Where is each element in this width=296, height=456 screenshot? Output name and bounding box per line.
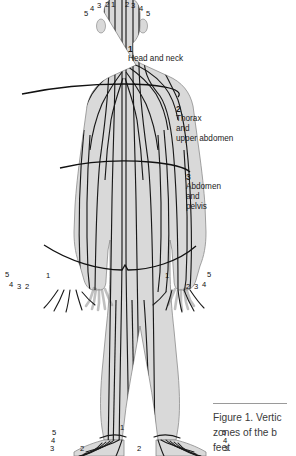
left-hand-digit-5: 5 [5, 270, 9, 279]
zone-3-line-3: pelvis [186, 202, 221, 212]
vertical-zones-figure: 5 4 3 2 1 2 3 4 5 5 4 3 2 1 1 2 3 4 5 5 … [0, 0, 296, 456]
zone-label-thorax-upper-abdomen: 2 Thorax and upper abdomen [176, 104, 233, 144]
head-digit-5-right: 5 [146, 9, 150, 18]
right-hand-digit-3: 3 [194, 282, 198, 291]
caption-line-2: zones of the b [213, 426, 296, 441]
left-hand-digit-3: 3 [17, 282, 21, 291]
figure-caption: Figure 1. Vertic zones of the b feet [213, 403, 296, 455]
head-digit-3-right: 3 [131, 1, 135, 10]
caption-rule [213, 403, 287, 404]
left-hand-digit-4: 4 [9, 280, 13, 289]
left-hand-digit-1: 1 [46, 271, 50, 280]
zone-2-line-1: Thorax [176, 114, 233, 124]
zone-3-number: 3 [186, 172, 221, 182]
body-silhouette [74, 0, 206, 456]
head-digit-2-left: 2 [105, 0, 109, 9]
zone-2-line-2: and [176, 124, 233, 134]
right-hand-digit-4: 4 [202, 280, 206, 289]
caption-line-1: Figure 1. Vertic [213, 411, 296, 426]
zone-label-head-and-neck: 1 Head and neck [128, 44, 183, 64]
head-digit-4-right: 4 [139, 4, 143, 13]
zone-1-line-1: Head and neck [128, 54, 183, 64]
head-digit-2-right: 2 [125, 0, 129, 9]
zone-3-line-2: and [186, 192, 221, 202]
head-digit-4-left: 4 [90, 4, 94, 13]
right-hand-digit-1: 1 [165, 271, 169, 280]
right-hand-digit-5: 5 [207, 270, 211, 279]
left-foot-digit-1: 1 [120, 423, 124, 432]
zone-1-number: 1 [128, 44, 183, 54]
zone-label-abdomen-pelvis: 3 Abdomen and pelvis [186, 172, 221, 212]
left-hand-digit-2: 2 [25, 282, 29, 291]
zone-2-line-3: upper abdomen [176, 134, 233, 144]
zone-2-number: 2 [176, 104, 233, 114]
head-digit-5-left: 5 [84, 9, 88, 18]
head-digit-3-left: 3 [97, 1, 101, 10]
left-foot-digit-3: 3 [50, 444, 54, 453]
head-digit-1-center: 1 [111, 0, 115, 9]
right-foot-digit-2: 2 [137, 444, 141, 453]
left-foot-digit-2: 2 [80, 444, 84, 453]
body-zone-diagram [0, 0, 296, 456]
caption-line-3: feet [213, 441, 296, 456]
zone-3-line-1: Abdomen [186, 182, 221, 192]
right-hand-digit-2: 2 [186, 282, 190, 291]
